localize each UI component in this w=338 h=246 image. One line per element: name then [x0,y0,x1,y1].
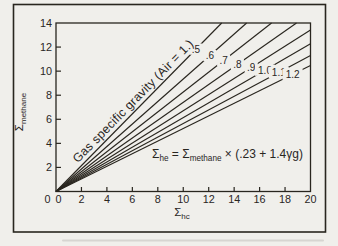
fan-chart-figure: .5.6.7.8.91.01.11.2 02468101214161820 02… [0,0,338,246]
y-tick-label: 8 [46,89,52,101]
equation-lhs-subscript: he [159,154,169,163]
gravity-line-label: .7 [219,55,228,66]
equation-rhs-sigma: Σ [182,147,189,161]
y-tick-label: 2 [46,161,52,173]
equation-equals: = [169,147,183,161]
equation-lhs-sigma: Σ [152,147,159,161]
conversion-equation: Σhe = Σmethane × (.23 + 1.4γg) [152,147,303,163]
y-tick-label: 6 [46,113,52,125]
x-tick-label: 14 [228,193,240,205]
x-tick-label: 12 [203,193,215,205]
y-axis-title: Σmethane [13,92,28,131]
gravity-line-label: 1.2 [286,69,300,80]
x-tick-label: 2 [78,193,84,205]
gravity-line-label: .8 [233,59,242,70]
x-tick-label: 6 [129,193,135,205]
x-tick-label: 16 [254,193,266,205]
scan-artifact [62,240,324,242]
equation-factor: × (.23 + 1.4γg) [222,147,303,161]
gravity-line-1.2 [56,65,311,191]
equation-rhs-subscript: methane [190,154,222,163]
x-axis-title: Σhc [174,206,190,221]
y-tick-label: 4 [46,137,52,149]
y-tick-label: 14 [40,17,52,29]
x-tick-label: 0 [55,193,61,205]
y-tick-label: 12 [40,41,52,53]
x-axis-title-sigma: Σ [174,206,181,218]
gravity-line-label: .6 [206,50,215,61]
x-tick-label: 20 [304,193,316,205]
y-tick-label: 10 [40,65,52,77]
x-tick-label: 8 [155,193,161,205]
y-axis-title-sigma: Σ [13,124,25,131]
chart-canvas: .5.6.7.8.91.01.11.2 02468101214161820 02… [0,0,338,246]
x-tick-label: 18 [279,193,291,205]
y-axis-title-subscript: methane [19,92,28,124]
gravity-line-label: .9 [247,62,256,73]
x-axis-ticks: 02468101214161820 [55,187,316,205]
y-tick-label: 0 [44,193,50,205]
x-tick-label: 10 [177,193,189,205]
gravity-line-.6 [56,23,247,192]
x-tick-label: 4 [104,193,110,205]
y-axis-ticks: 02468101214 [40,17,61,205]
x-axis-title-subscript: hc [181,212,189,221]
gravity-line-.7 [56,23,272,192]
